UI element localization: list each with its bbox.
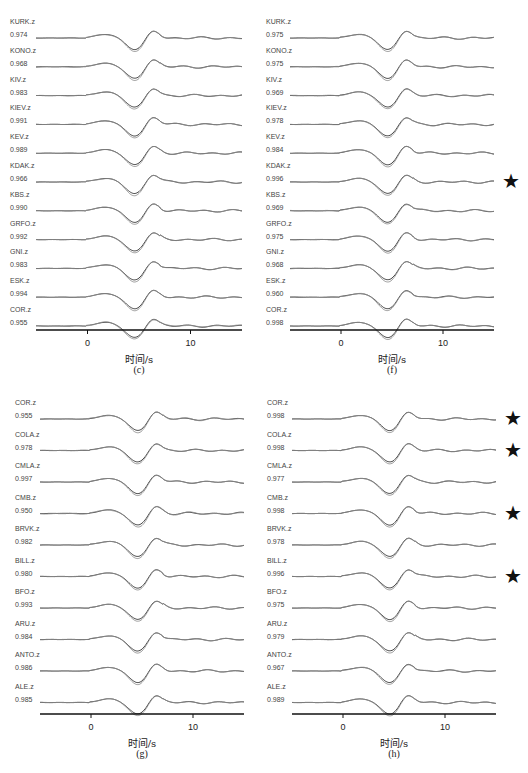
synthetic-waveform bbox=[292, 444, 496, 464]
observed-waveform bbox=[36, 147, 242, 165]
synthetic-waveform bbox=[36, 233, 242, 253]
observed-waveform bbox=[290, 319, 494, 338]
observed-waveform bbox=[292, 570, 496, 588]
observed-waveform bbox=[290, 175, 494, 193]
x-tick-label: 0 bbox=[85, 338, 90, 348]
station-label: ESK.z bbox=[10, 277, 29, 284]
station-label: KURK.z bbox=[266, 18, 291, 25]
x-tick-label: 10 bbox=[440, 722, 450, 732]
station-label: GRFO.z bbox=[10, 220, 36, 227]
correlation-value: 0.955 bbox=[10, 319, 28, 326]
station-label: GNI.z bbox=[10, 248, 28, 255]
correlation-value: 0.996 bbox=[267, 570, 285, 577]
station-label: ARU.z bbox=[15, 620, 35, 627]
correlation-value: 0.975 bbox=[267, 601, 285, 608]
station-label: GRFO.z bbox=[266, 220, 292, 227]
correlation-value: 0.975 bbox=[266, 233, 284, 240]
observed-waveform bbox=[36, 118, 242, 136]
station-label: KONO.z bbox=[266, 47, 292, 54]
synthetic-waveform bbox=[290, 146, 494, 167]
station-label: ANTO.z bbox=[15, 651, 40, 658]
station-label: KBS.z bbox=[266, 191, 285, 198]
station-label: ESK.z bbox=[266, 277, 285, 284]
observed-waveform bbox=[40, 633, 244, 651]
station-label: KIV.z bbox=[266, 76, 282, 83]
synthetic-waveform bbox=[290, 233, 494, 253]
correlation-value: 0.975 bbox=[266, 60, 284, 67]
observed-waveform bbox=[40, 475, 244, 493]
correlation-value: 0.998 bbox=[267, 444, 285, 451]
correlation-value: 0.978 bbox=[266, 117, 284, 124]
synthetic-waveform bbox=[292, 539, 496, 559]
station-label: BFO.z bbox=[15, 588, 35, 595]
star-icon: ★ bbox=[504, 408, 522, 428]
synthetic-waveform bbox=[290, 175, 494, 195]
x-tick-label: 10 bbox=[188, 722, 198, 732]
station-label: KEV.z bbox=[266, 133, 285, 140]
correlation-value: 0.998 bbox=[266, 319, 284, 326]
station-label: COLA.z bbox=[267, 431, 292, 438]
star-icon: ★ bbox=[504, 566, 522, 586]
correlation-value: 0.996 bbox=[266, 175, 284, 182]
station-label: BFO.z bbox=[267, 588, 287, 595]
station-label: KDAK.z bbox=[10, 162, 35, 169]
correlation-value: 0.986 bbox=[15, 664, 33, 671]
x-tick-label: 0 bbox=[340, 722, 345, 732]
correlation-value: 0.968 bbox=[266, 261, 284, 268]
correlation-value: 0.991 bbox=[10, 117, 28, 124]
correlation-value: 0.968 bbox=[10, 60, 28, 67]
correlation-value: 0.994 bbox=[10, 290, 28, 297]
synthetic-waveform bbox=[40, 539, 244, 559]
correlation-value: 0.969 bbox=[266, 89, 284, 96]
observed-waveform bbox=[290, 291, 494, 309]
synthetic-waveform bbox=[36, 262, 242, 282]
x-tick-label: 0 bbox=[338, 338, 343, 348]
correlation-value: 0.977 bbox=[267, 475, 285, 482]
observed-waveform bbox=[292, 444, 496, 462]
observed-waveform bbox=[36, 175, 242, 193]
synthetic-waveform bbox=[36, 147, 242, 167]
correlation-value: 0.978 bbox=[15, 444, 33, 451]
star-icon: ★ bbox=[504, 503, 522, 523]
station-label: CMB.z bbox=[15, 494, 36, 501]
waveform-panel-f: KURK.z0.975KONO.z0.975KIV.z0.969KIEV.z0.… bbox=[264, 0, 528, 380]
panel-caption: (c) bbox=[133, 364, 144, 375]
observed-waveform bbox=[290, 204, 494, 222]
correlation-value: 0.950 bbox=[15, 507, 33, 514]
observed-waveform bbox=[40, 570, 244, 588]
station-label: GNI.z bbox=[266, 248, 284, 255]
observed-waveform bbox=[290, 89, 494, 107]
correlation-value: 0.989 bbox=[267, 696, 285, 703]
observed-waveform bbox=[40, 696, 244, 714]
synthetic-waveform bbox=[290, 262, 494, 282]
synthetic-waveform bbox=[36, 60, 242, 81]
station-label: KBS.z bbox=[10, 191, 29, 198]
station-label: COR.z bbox=[10, 306, 31, 313]
observed-waveform bbox=[36, 233, 242, 251]
station-label: ARU.z bbox=[267, 620, 287, 627]
observed-waveform bbox=[290, 118, 494, 136]
waveform-panel-c: KURK.z0.974KONO.z0.968KIV.z0.983KIEV.z0.… bbox=[0, 0, 264, 380]
synthetic-waveform bbox=[290, 60, 494, 80]
correlation-value: 0.984 bbox=[15, 633, 33, 640]
observed-waveform bbox=[292, 601, 496, 619]
correlation-value: 0.983 bbox=[10, 261, 28, 268]
synthetic-waveform bbox=[40, 412, 244, 433]
correlation-value: 0.955 bbox=[15, 412, 33, 419]
waveform-plot-h bbox=[264, 383, 528, 773]
synthetic-waveform bbox=[290, 291, 494, 311]
synthetic-waveform bbox=[40, 570, 244, 590]
correlation-value: 0.998 bbox=[267, 412, 285, 419]
synthetic-waveform bbox=[292, 601, 496, 621]
synthetic-waveform bbox=[36, 175, 242, 195]
observed-waveform bbox=[292, 664, 496, 682]
waveform-panel-h: COR.z0.998★COLA.z0.998★CMLA.z0.977CMB.z0… bbox=[264, 383, 528, 773]
synthetic-waveform bbox=[292, 665, 496, 685]
synthetic-waveform bbox=[40, 444, 244, 464]
station-label: KIEV.z bbox=[266, 104, 287, 111]
station-label: COR.z bbox=[267, 399, 288, 406]
observed-waveform bbox=[36, 60, 242, 78]
station-label: KIV.z bbox=[10, 76, 26, 83]
synthetic-waveform bbox=[290, 118, 494, 138]
correlation-value: 0.969 bbox=[266, 204, 284, 211]
